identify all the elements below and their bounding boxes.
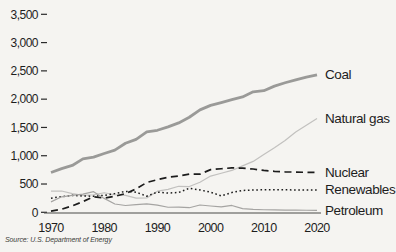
x-tick-label: 2000 bbox=[198, 221, 224, 235]
y-tick-label: 3,500 bbox=[10, 8, 38, 22]
series-label-natural-gas: Natural gas bbox=[325, 111, 390, 126]
x-tick-label: 2020 bbox=[304, 221, 330, 235]
y-tick-label: 3,000 bbox=[10, 36, 38, 50]
series-label-coal: Coal bbox=[325, 67, 352, 82]
source-note: Source: U.S. Department of Energy bbox=[5, 236, 112, 243]
x-tick-label: 2010 bbox=[251, 221, 277, 235]
y-tick-label: 0 bbox=[32, 206, 39, 220]
y-tick-label: 2,500 bbox=[10, 64, 38, 78]
series-line-renewables bbox=[51, 188, 317, 198]
energy-line-chart-figure: 05001,0001,5002,0002,5003,0003,500197019… bbox=[0, 0, 396, 252]
series-label-renewables: Renewables bbox=[325, 182, 396, 197]
x-tick-label: 1980 bbox=[91, 221, 117, 235]
y-tick-label: 2,000 bbox=[10, 92, 38, 106]
y-tick-label: 1,500 bbox=[10, 121, 38, 135]
x-tick-label: 1990 bbox=[145, 221, 171, 235]
chart-canvas: 05001,0001,5002,0002,5003,0003,500197019… bbox=[0, 0, 396, 252]
series-line-nuclear bbox=[51, 168, 317, 211]
series-label-nuclear: Nuclear bbox=[325, 165, 370, 180]
y-tick-label: 500 bbox=[19, 177, 38, 191]
series-label-petroleum: Petroleum bbox=[325, 203, 383, 218]
x-tick-label: 1970 bbox=[38, 221, 64, 235]
series-line-coal bbox=[51, 75, 317, 173]
y-tick-label: 1,000 bbox=[10, 149, 38, 163]
